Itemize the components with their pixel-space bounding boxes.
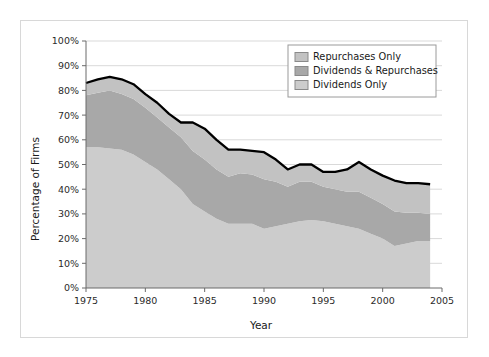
x-tick-label: 1980 bbox=[133, 295, 157, 306]
x-tick-label: 2000 bbox=[371, 295, 395, 306]
y-tick-label: 70% bbox=[58, 110, 79, 121]
x-tick-label: 2005 bbox=[430, 295, 454, 306]
y-tick-label: 30% bbox=[58, 208, 79, 219]
chart-figure: 0%10%20%30%40%50%60%70%80%90%100% 197519… bbox=[20, 20, 468, 338]
y-tick-label: 40% bbox=[58, 184, 79, 195]
y-tick-label: 100% bbox=[52, 35, 79, 46]
chart-legend[interactable]: Repurchases OnlyDividends & RepurchasesD… bbox=[288, 45, 438, 97]
x-tick-label: 1975 bbox=[74, 295, 98, 306]
stacked-area-chart: 0%10%20%30%40%50%60%70%80%90%100% 197519… bbox=[21, 21, 469, 339]
y-tick-label: 80% bbox=[58, 85, 79, 96]
x-axis-title: Year bbox=[249, 319, 273, 331]
y-tick-labels-group: 0%10%20%30%40%50%60%70%80%90%100% bbox=[52, 35, 79, 293]
x-tick-labels-group: 1975198019851990199520002005 bbox=[74, 295, 454, 306]
y-tick-label: 20% bbox=[58, 233, 79, 244]
legend-label-2[interactable]: Dividends Only bbox=[313, 79, 387, 90]
x-tick-label: 1995 bbox=[311, 295, 335, 306]
area-series-group bbox=[86, 77, 430, 288]
y-tick-label: 60% bbox=[58, 134, 79, 145]
x-tick-label: 1985 bbox=[193, 295, 217, 306]
y-tick-label: 90% bbox=[58, 60, 79, 71]
x-tick-label: 1990 bbox=[252, 295, 276, 306]
y-tick-label: 0% bbox=[64, 282, 79, 293]
legend-swatch-2[interactable] bbox=[295, 81, 308, 90]
legend-label-1[interactable]: Dividends & Repurchases bbox=[313, 65, 438, 76]
y-tick-label: 10% bbox=[58, 258, 79, 269]
y-tick-label: 50% bbox=[58, 159, 79, 170]
legend-label-0[interactable]: Repurchases Only bbox=[313, 51, 401, 62]
plot-wrapper: 0%10%20%30%40%50%60%70%80%90%100% 197519… bbox=[21, 21, 469, 339]
legend-swatch-0[interactable] bbox=[295, 53, 308, 62]
y-axis-title: Percentage of Firms bbox=[29, 137, 41, 241]
legend-swatch-1[interactable] bbox=[295, 67, 308, 76]
